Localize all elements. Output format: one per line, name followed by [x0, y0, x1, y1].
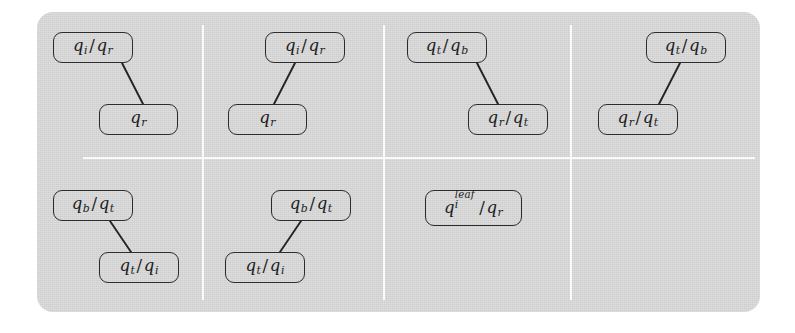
- column-divider-1: [202, 25, 204, 300]
- node-r1c4-parent[interactable]: qt/qb: [646, 32, 726, 63]
- node-label: qleafi/qr: [444, 196, 503, 218]
- node-label: qt/qb: [426, 38, 469, 57]
- cell-r2c4: [570, 159, 760, 300]
- node-r2c1-parent[interactable]: qb/qt: [53, 190, 133, 221]
- node-label: qr/qt: [488, 110, 529, 129]
- figure-canvas: qi/qr qr qi/qr qr qt/qb qr/qt qt/qb qr/q…: [0, 0, 795, 333]
- node-label: qr/qt: [618, 110, 659, 129]
- node-label: qb/qt: [290, 196, 333, 215]
- node-label: qt/qi: [245, 258, 284, 277]
- column-divider-2: [383, 25, 385, 300]
- node-label: qi/qr: [285, 38, 325, 57]
- node-r2c2-parent[interactable]: qb/qt: [271, 190, 351, 221]
- node-r2c3-single[interactable]: qleafi/qr: [425, 190, 522, 226]
- node-label: qb/qt: [72, 196, 115, 215]
- node-r2c1-child[interactable]: qt/qi: [99, 252, 179, 283]
- node-r1c2-child[interactable]: qr: [228, 104, 307, 135]
- node-label: qr: [130, 110, 146, 129]
- node-r1c4-child[interactable]: qr/qt: [598, 104, 678, 135]
- node-r1c3-parent[interactable]: qt/qb: [407, 32, 487, 63]
- node-label: qt/qb: [665, 38, 708, 57]
- node-label: qr: [259, 110, 275, 129]
- node-r1c1-parent[interactable]: qi/qr: [53, 32, 133, 63]
- node-r2c2-child[interactable]: qt/qi: [225, 252, 305, 283]
- node-label: qt/qi: [119, 258, 158, 277]
- node-label: qi/qr: [73, 38, 113, 57]
- node-r1c1-child[interactable]: qr: [99, 104, 178, 135]
- node-r1c2-parent[interactable]: qi/qr: [265, 32, 345, 63]
- node-r1c3-child[interactable]: qr/qt: [468, 104, 548, 135]
